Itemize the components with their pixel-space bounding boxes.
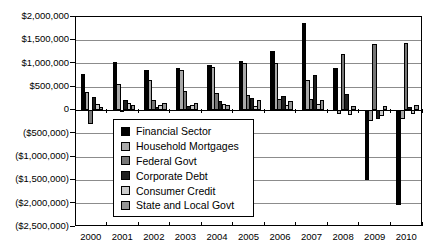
y-axis-tick [70,179,75,180]
y-axis-label: ($1,500,000) [0,174,69,184]
x-axis-label-2003: 2003 [169,231,201,242]
y-axis-label: $2,000,000 [0,11,69,21]
legend-item: State and Local Govt [121,198,247,213]
legend-label: Federal Govt [136,155,197,167]
zero-axis-tick [264,109,265,113]
bar-financial-sector-2010 [396,110,401,205]
bar-federal-govt-2010 [404,43,409,110]
bar-household-mortgages-2000 [85,92,90,110]
bar-chart-figure: $2,000,000$1,500,000$1,000,000$500,0000(… [0,0,429,250]
x-axis-tick [358,222,359,226]
y-axis-tick [70,202,75,203]
legend-label: Financial Sector [136,125,211,137]
bar-state-and-local-govt-2005 [257,100,262,110]
x-axis-label-2008: 2008 [327,231,359,242]
y-axis-tick [70,39,75,40]
x-axis-label-2002: 2002 [138,231,170,242]
legend-label: Corporate Debt [136,170,208,182]
legend-item: Corporate Debt [121,168,247,183]
y-axis-label: ($2,000,000) [0,198,69,208]
legend-swatch-icon [121,127,130,136]
zero-axis-tick [390,109,391,113]
zero-axis-tick [327,109,328,113]
bar-federal-govt-2001 [120,110,125,112]
legend-item: Household Mortgages [121,139,247,154]
bar-consumer-credit-2008 [348,110,353,115]
legend-swatch-icon [121,156,130,165]
x-axis-tick [75,222,76,226]
zero-axis-tick [358,109,359,113]
zero-axis-tick [138,109,139,113]
bar-household-mortgages-2009 [368,110,373,121]
bar-state-and-local-govt-2010 [414,105,419,111]
bar-state-and-local-govt-2004 [225,105,230,111]
x-axis-tick [138,222,139,226]
legend-label: State and Local Govt [136,199,234,211]
zero-axis-tick [75,109,76,113]
x-axis-tick [295,222,296,226]
zero-axis-tick [106,109,107,113]
legend-item: Financial Sector [121,124,247,139]
bar-state-and-local-govt-2008 [351,106,356,110]
x-axis-tick [422,222,423,226]
zero-axis-tick [295,109,296,113]
bar-state-and-local-govt-2002 [162,103,167,110]
bar-financial-sector-2008 [333,68,338,110]
legend-item: Federal Govt [121,154,247,169]
y-axis-label: $1,000,000 [0,58,69,68]
bar-consumer-credit-2010 [411,110,416,113]
x-axis-label-2005: 2005 [233,231,265,242]
legend-swatch-icon [121,186,130,195]
y-axis-tick [70,156,75,157]
y-axis-tick [70,86,75,87]
bar-state-and-local-govt-2009 [383,106,388,110]
legend-item: Consumer Credit [121,183,247,198]
legend-swatch-icon [121,201,130,210]
bar-federal-govt-2009 [372,44,377,111]
y-axis-label: $500,000 [0,81,69,91]
bar-household-mortgages-2010 [400,110,405,118]
y-axis-tick [70,62,75,63]
bar-household-mortgages-2008 [337,110,342,114]
y-axis-label: ($1,000,000) [0,151,69,161]
bar-state-and-local-govt-2001 [131,105,136,110]
bar-state-and-local-govt-2000 [99,107,104,110]
bar-state-and-local-govt-2003 [194,103,199,110]
bar-state-and-local-govt-2006 [288,101,293,110]
gridline [76,63,421,64]
zero-axis-tick [201,109,202,113]
bar-corporate-debt-2008 [344,94,349,110]
gridline [76,40,421,41]
zero-axis-tick [232,109,233,113]
x-axis-label-2006: 2006 [264,231,296,242]
x-axis-label-2001: 2001 [106,231,138,242]
x-axis-tick [169,222,170,226]
x-axis-label-2004: 2004 [201,231,233,242]
legend-swatch-icon [121,142,130,151]
gridline [76,87,421,88]
x-axis-label-2009: 2009 [359,231,391,242]
x-axis-tick [327,222,328,226]
legend-label: Household Mortgages [136,140,239,152]
bar-consumer-credit-2009 [379,110,384,115]
legend-swatch-icon [121,171,130,180]
y-axis-label: $1,500,000 [0,34,69,44]
x-axis-tick [232,222,233,226]
x-axis-tick [390,222,391,226]
bar-household-mortgages-2001 [116,84,121,110]
x-axis-tick [201,222,202,226]
bar-state-and-local-govt-2007 [320,100,325,111]
chart-legend: Financial SectorHousehold MortgagesFeder… [113,119,254,217]
x-axis-label-2010: 2010 [390,231,422,242]
y-axis-label: 0 [0,104,69,114]
y-axis-label: ($2,500,000) [0,221,69,231]
x-axis-tick [106,222,107,226]
zero-axis-tick [422,109,423,113]
y-axis-label: ($500,000) [0,128,69,138]
y-axis-tick [70,132,75,133]
x-axis-label-2007: 2007 [296,231,328,242]
x-axis-tick [264,222,265,226]
y-axis-tick [70,16,75,17]
zero-axis-tick [169,109,170,113]
x-axis-label-2000: 2000 [75,231,107,242]
